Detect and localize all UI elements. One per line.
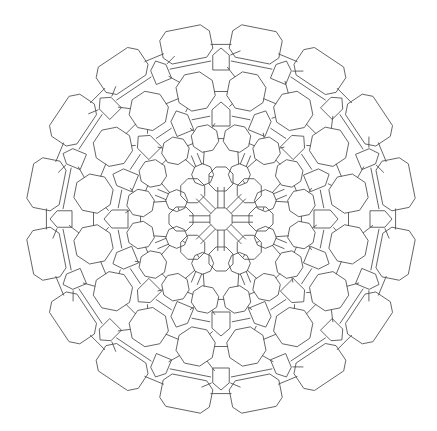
octagon-rings — [50, 48, 392, 390]
central-octagon — [210, 208, 232, 230]
octagonal-tiling-drawing — [0, 0, 437, 431]
double-line-spokes — [155, 153, 287, 285]
scalloped-outer-boundary — [27, 25, 415, 413]
ring-connectors — [46, 44, 395, 393]
geometric-pattern-figure — [0, 0, 437, 431]
